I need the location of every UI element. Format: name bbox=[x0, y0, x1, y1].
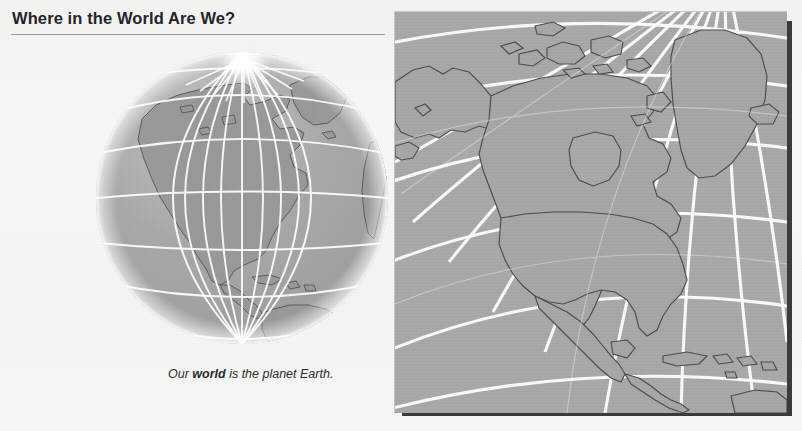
map-graphic bbox=[395, 12, 787, 413]
world-globe-illustration bbox=[94, 33, 390, 363]
globe-graphic bbox=[94, 33, 390, 363]
caption-suffix: is the planet Earth. bbox=[226, 367, 334, 381]
caption-prefix: Our bbox=[168, 367, 192, 381]
north-america-polar-map bbox=[394, 11, 787, 413]
page-title: Where in the World Are We? bbox=[12, 9, 235, 28]
globe-limb-fade bbox=[96, 52, 388, 344]
caption-emphasis: world bbox=[192, 367, 225, 381]
